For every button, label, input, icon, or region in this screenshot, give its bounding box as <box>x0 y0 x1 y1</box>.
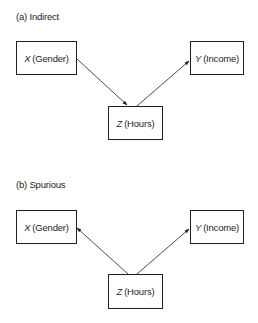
edges-layer <box>0 0 258 323</box>
edge-z-to-x <box>77 228 128 274</box>
edge-x-to-z <box>77 59 127 105</box>
edge-z-to-y <box>137 229 189 274</box>
edge-z-to-y <box>137 61 189 106</box>
